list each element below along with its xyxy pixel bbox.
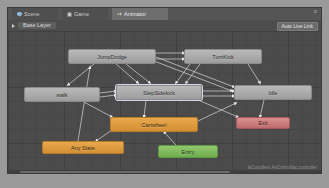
state-node-turnkick[interactable]: TurnKick (184, 49, 262, 64)
auto-live-link-button[interactable]: Auto Live Link (277, 22, 318, 32)
tab-animator-label: Animator (124, 11, 146, 17)
state-node-exit[interactable]: Exit (236, 117, 290, 129)
back-arrow-icon[interactable] (12, 24, 15, 28)
state-node-stepsidekick[interactable]: StepSidekick (116, 85, 202, 100)
state-node-jumpdodge[interactable]: JumpDodge (68, 49, 156, 64)
node-label: Any State (71, 145, 95, 151)
node-label: Idle (269, 90, 278, 96)
state-machine-canvas[interactable]: JumpDodge TurnKick walk StepSidekick Idl… (8, 31, 321, 173)
tab-game[interactable]: Game (62, 8, 108, 20)
animator-icon (117, 12, 122, 17)
scene-icon (17, 12, 22, 17)
tab-scene[interactable]: Scene (12, 8, 58, 20)
node-label: walk (56, 92, 67, 98)
state-node-idle[interactable]: Idle (234, 85, 312, 100)
game-icon (67, 12, 72, 17)
state-node-entry[interactable]: Entry (158, 145, 218, 158)
node-label: Entry (182, 149, 195, 155)
tab-animator[interactable]: Animator (112, 8, 168, 20)
node-label: JumpDodge (97, 54, 127, 60)
node-label: TurnKick (212, 54, 234, 60)
state-node-walk[interactable]: walk (24, 87, 100, 102)
window-menu-icon[interactable]: ≡ (314, 8, 317, 14)
node-label: Cartwheel (142, 122, 167, 128)
tab-scene-label: Scene (24, 11, 40, 17)
animator-window: Scene Game Animator ≡ Base Layer Auto Li… (8, 8, 321, 173)
breadcrumb: Base Layer (12, 21, 56, 30)
state-node-any-state[interactable]: Any State (42, 141, 124, 154)
node-label: StepSidekick (143, 90, 175, 96)
breadcrumb-base-layer[interactable]: Base Layer (18, 22, 56, 30)
tab-game-label: Game (74, 11, 89, 17)
state-node-cartwheel[interactable]: Cartwheel (110, 117, 198, 132)
horizontal-scrollbar[interactable] (8, 170, 321, 173)
scrollbar-thumb[interactable] (20, 171, 230, 173)
node-label: Exit (258, 120, 267, 126)
